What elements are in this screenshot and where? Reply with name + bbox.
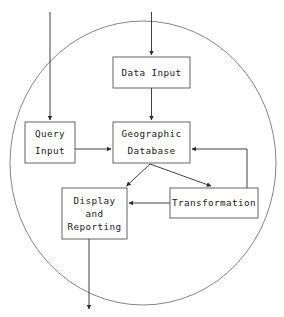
flow-diagram: Data Input Query Input Geographic Databa…: [0, 0, 284, 317]
figure-canvas: Data Input Query Input Geographic Databa…: [0, 0, 284, 317]
node-data-input-label: Data Input: [122, 67, 182, 78]
node-geographic-database-label-line2: Database: [128, 145, 176, 156]
node-layer: Data Input Query Input Geographic Databa…: [25, 57, 258, 239]
node-display-and-reporting[interactable]: Display and Reporting: [62, 188, 127, 239]
node-geographic-database[interactable]: Geographic Database: [113, 122, 190, 163]
node-transformation[interactable]: Transformation: [170, 188, 258, 218]
node-transformation-label: Transformation: [172, 197, 256, 208]
node-display-and-reporting-label-line1: Display: [74, 195, 116, 206]
edge-database-to-display: [127, 164, 151, 186]
node-query-input-label-line1: Query: [35, 128, 65, 139]
node-display-and-reporting-label-line2: and: [86, 208, 104, 219]
node-geographic-database-label-line1: Geographic: [122, 128, 182, 139]
node-data-input[interactable]: Data Input: [113, 57, 190, 88]
edge-database-to-transformation: [150, 164, 211, 186]
node-display-and-reporting-label-line3: Reporting: [68, 221, 122, 232]
node-query-input-label-line2: Input: [35, 145, 65, 156]
node-query-input[interactable]: Query Input: [25, 122, 75, 163]
